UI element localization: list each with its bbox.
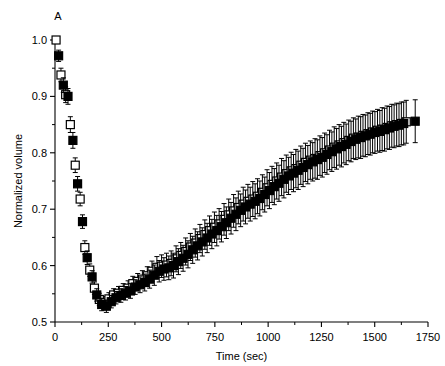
data-point-square-filled (411, 117, 419, 125)
data-point-square-filled (55, 52, 63, 60)
data-point-square-filled (59, 81, 67, 89)
data-point-square-open (81, 244, 89, 252)
chart-svg: 0.50.60.70.80.91.00250500750100012501500… (0, 0, 445, 366)
x-axis-label: Time (sec) (216, 350, 268, 362)
y-tick-label: 0.6 (32, 260, 47, 272)
data-point-square-filled (69, 136, 77, 144)
x-tick-label: 750 (206, 331, 224, 343)
data-point-square-filled (83, 254, 91, 262)
x-tick-label: 0 (52, 331, 58, 343)
y-tick-label: 0.7 (32, 203, 47, 215)
data-point-square-open (76, 195, 84, 203)
data-point-square-filled (64, 92, 72, 100)
data-point-square-open (66, 121, 74, 129)
data-point-square-filled (78, 218, 86, 226)
y-tick-label: 0.5 (32, 316, 47, 328)
x-tick-label: 500 (152, 331, 170, 343)
data-point-square-open (71, 161, 79, 169)
y-tick-label: 1.0 (32, 34, 47, 46)
y-axis-label: Normalized volume (12, 134, 24, 228)
data-point-square-open (52, 36, 60, 44)
x-tick-label: 1000 (256, 331, 280, 343)
panel-label: A (54, 10, 62, 22)
data-point-square-filled (93, 291, 101, 299)
y-tick-label: 0.9 (32, 90, 47, 102)
series-filled-squares (55, 50, 420, 312)
data-point-square-filled (400, 119, 408, 127)
x-tick-label: 1500 (362, 331, 386, 343)
x-tick-label: 250 (99, 331, 117, 343)
x-tick-label: 1250 (309, 331, 333, 343)
figure-panel-a: 0.50.60.70.80.91.00250500750100012501500… (0, 0, 445, 366)
data-point-square-filled (88, 273, 96, 281)
data-point-square-filled (74, 180, 82, 188)
series-open-squares (52, 36, 410, 309)
y-tick-label: 0.8 (32, 147, 47, 159)
x-tick-label: 1750 (416, 331, 440, 343)
